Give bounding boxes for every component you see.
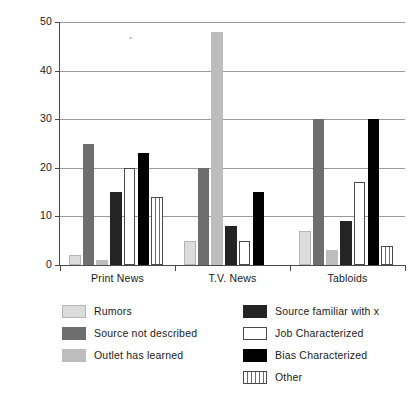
bar: [198, 168, 210, 265]
x-tick-label-t-v-news: T.V. News: [175, 272, 290, 284]
bar: [239, 241, 251, 265]
bar: [83, 144, 95, 266]
bar: [340, 221, 352, 265]
x-tick-mark: [405, 265, 406, 271]
legend-item: Bias Characterized: [243, 344, 379, 366]
bar: [326, 250, 338, 265]
legend-label: Rumors: [94, 305, 132, 317]
legend-column-left: RumorsSource not describedOutlet has lea…: [62, 300, 197, 366]
bar: [368, 119, 380, 265]
legend-label: Other: [275, 371, 302, 383]
bar: [184, 241, 196, 265]
bar-chart-figure: Percent 50403020100Print NewsT.V. NewsTa…: [0, 0, 416, 413]
legend-item: Source familiar with x: [243, 300, 379, 322]
chart-plot-region: Percent 50403020100Print NewsT.V. NewsTa…: [0, 0, 416, 292]
legend-item: Outlet has learned: [62, 344, 197, 366]
legend-label: Job Characterized: [275, 327, 364, 339]
bar-group-print-news: [60, 22, 175, 265]
dark-gray-swatch: [62, 327, 86, 340]
legend-item: Source not described: [62, 322, 197, 344]
bar: [110, 192, 122, 265]
legend-column-right: Source familiar with xJob CharacterizedB…: [243, 300, 379, 388]
legend-label: Bias Characterized: [275, 349, 367, 361]
y-tick-label-40: 40: [12, 64, 52, 76]
legend-item: Rumors: [62, 300, 197, 322]
y-tick-label-30: 30: [12, 112, 52, 124]
near-black-swatch: [243, 305, 267, 318]
x-tick-label-tabloids: Tabloids: [290, 272, 405, 284]
y-tick-label-0: 0: [12, 258, 52, 270]
bar: [381, 246, 393, 265]
x-tick-mark: [175, 265, 176, 271]
legend-label: Source not described: [94, 327, 197, 339]
x-tick-mark: [290, 265, 291, 271]
legend-label: Outlet has learned: [94, 349, 183, 361]
bar: [69, 255, 81, 265]
legend-item: Job Characterized: [243, 322, 379, 344]
bar: [253, 192, 265, 265]
legend-label: Source familiar with x: [275, 305, 379, 317]
print-artifact-speck: [129, 37, 132, 39]
white-swatch: [243, 327, 267, 340]
bar: [211, 32, 223, 265]
x-tick-mark: [60, 265, 61, 271]
y-tick-label-20: 20: [12, 161, 52, 173]
x-axis-line: [59, 265, 405, 266]
y-tick-label-10: 10: [12, 209, 52, 221]
y-tick-label-50: 50: [12, 15, 52, 27]
bar: [151, 197, 163, 265]
black-swatch: [243, 349, 267, 362]
light-gray-swatch: [62, 305, 86, 318]
chart-legend: RumorsSource not describedOutlet has lea…: [0, 300, 416, 405]
bar: [354, 182, 366, 265]
bar: [313, 119, 325, 265]
bar: [299, 231, 311, 265]
medium-gray-swatch: [62, 349, 86, 362]
legend-item: Other: [243, 366, 379, 388]
striped-swatch: [243, 371, 267, 384]
bar: [138, 153, 150, 265]
bar-group-t-v-news: [175, 22, 290, 265]
x-tick-label-print-news: Print News: [60, 272, 175, 284]
bar-group-tabloids: [290, 22, 405, 265]
plot-inner: [60, 22, 405, 265]
bar: [124, 168, 136, 265]
bar: [225, 226, 237, 265]
